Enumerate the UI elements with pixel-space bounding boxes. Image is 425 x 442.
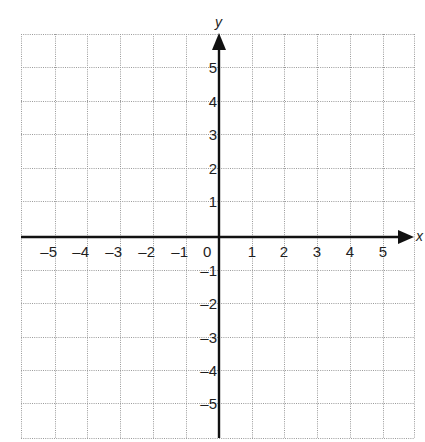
x-tick-label: 0 (203, 244, 211, 259)
x-tick-label: –5 (40, 244, 57, 259)
y-tick-label: –4 (200, 363, 217, 378)
x-tick-label: 3 (313, 244, 321, 259)
x-axis-arrow-icon (398, 230, 414, 244)
y-tick-label: 2 (209, 161, 217, 176)
x-axis-label: x (416, 229, 423, 243)
x-tick-label: –3 (105, 244, 122, 259)
y-tick-label: 1 (209, 194, 217, 209)
x-tick-label: 5 (379, 244, 387, 259)
x-tick-label: 1 (248, 244, 256, 259)
y-tick-label: 3 (209, 127, 217, 142)
y-tick-label: –2 (200, 296, 217, 311)
y-tick-label: –3 (200, 330, 217, 345)
x-tick-label: –2 (138, 244, 155, 259)
y-axis-label: y (215, 15, 222, 29)
y-tick-label: –1 (200, 263, 217, 278)
y-tick-label: –5 (200, 396, 217, 411)
x-tick-label: –4 (72, 244, 89, 259)
y-tick-label: 5 (209, 60, 217, 75)
x-tick-label: 2 (280, 244, 288, 259)
axes (21, 33, 414, 438)
x-tick-label: –1 (171, 244, 188, 259)
y-tick-label: 4 (209, 94, 217, 109)
y-axis-arrow-icon (212, 33, 226, 50)
x-tick-label: 4 (346, 244, 354, 259)
